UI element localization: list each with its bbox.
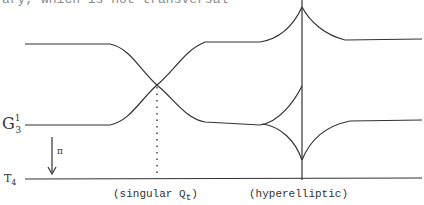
upper-cusp-right (302, 7, 422, 40)
lower-cusp-left (262, 124, 302, 160)
upper-branch-curve (25, 44, 302, 125)
moduli-diagram (0, 0, 424, 205)
g-3-1-label: G13 (2, 113, 21, 135)
t4-label: T4 (4, 172, 16, 187)
t4-baseline (25, 178, 422, 179)
projection-label: π (57, 146, 63, 156)
hyperelliptic-label: (hyperelliptic) (249, 188, 348, 200)
lower-branch-curve (25, 7, 302, 125)
singular-label: (singular Qt) (113, 188, 198, 203)
lower-cusp-right (302, 120, 422, 160)
